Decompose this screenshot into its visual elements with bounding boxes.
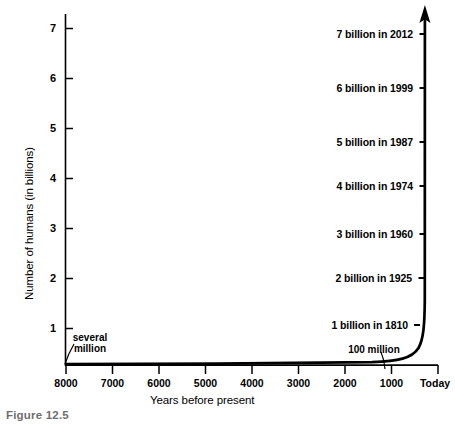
x-axis-title: Years before present [150,395,254,407]
x-tick-label-2000: 2000 [322,378,368,389]
y-tick-label-7: 7 [40,23,56,34]
y-axis-ticks [66,29,74,329]
x-tick-label-8000: 8000 [43,378,89,389]
x-tick-label-7000: 7000 [90,378,136,389]
y-axis-title: Number of humans (in billions) [24,147,36,300]
figure-caption: Figure 12.5 [6,409,69,421]
x-tick-label-1000: 1000 [369,378,415,389]
population-curve [66,20,425,364]
y-tick-label-4: 4 [40,173,56,184]
x-tick-label-3000: 3000 [276,378,322,389]
callout-100-million: 100 million [328,344,420,355]
x-tick-label-today: Today [412,378,455,389]
y-tick-label-2: 2 [40,273,56,284]
y-tick-label-3: 3 [40,223,56,234]
x-tick-label-5000: 5000 [183,378,229,389]
annotation-6-billion: 6 billion in 1999 [300,83,413,94]
y-tick-label-1: 1 [40,323,56,334]
x-tick-label-4000: 4000 [229,378,275,389]
annotation-5-billion: 5 billion in 1987 [300,137,413,148]
y-tick-label-6: 6 [40,73,56,84]
annotation-ticks [414,34,425,325]
annotation-2-billion: 2 billion in 1925 [299,273,412,284]
annotation-4-billion: 4 billion in 1974 [300,181,413,192]
annotation-1-billion: 1 billion in 1810 [295,320,408,331]
callout-several-million-line1: several [73,332,107,343]
annotation-7-billion: 7 billion in 2012 [300,29,413,40]
annotation-3-billion: 3 billion in 1960 [300,229,413,240]
callout-several-million-line2: million [74,343,106,354]
callout-several-million: severalmillion [62,332,118,354]
x-axis-ticks [66,365,438,374]
y-tick-label-5: 5 [40,123,56,134]
x-tick-label-6000: 6000 [136,378,182,389]
